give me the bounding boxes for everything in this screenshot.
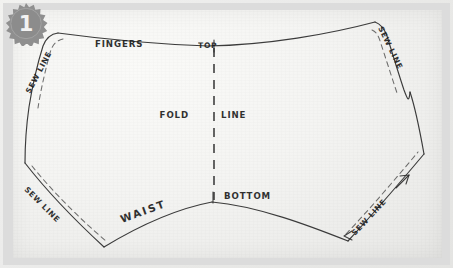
label-sew-line-bottom-right: SEW LINE bbox=[350, 197, 388, 237]
badge-starburst-icon: 1 bbox=[4, 2, 48, 46]
outline-bottom-right-edge bbox=[212, 202, 348, 241]
label-sew-line-top-right: SEW LINE bbox=[376, 25, 404, 71]
label-fold-line-left: FOLD bbox=[160, 110, 189, 120]
label-fingers: FINGERS bbox=[95, 39, 143, 49]
label-fold-line-right: LINE bbox=[221, 110, 246, 120]
label-top: TOP bbox=[198, 41, 217, 50]
outline-right-mid-edge bbox=[410, 92, 424, 154]
outline-left-upper-edge bbox=[25, 33, 58, 163]
label-sew-line-bottom-left: SEW LINE bbox=[23, 185, 62, 224]
step-number-badge: 1 bbox=[4, 2, 48, 46]
pattern-drawing: FINGERS TOP FOLD LINE BOTTOM WAIST SEW L… bbox=[0, 0, 453, 268]
badge-number-text: 1 bbox=[19, 12, 34, 36]
label-sew-line-top-left: SEW LINE bbox=[24, 50, 54, 95]
label-waist: WAIST bbox=[119, 197, 168, 225]
sew-line-bottom-right bbox=[346, 152, 418, 234]
screenshot-root: FINGERS TOP FOLD LINE BOTTOM WAIST SEW L… bbox=[0, 0, 453, 268]
label-bottom: BOTTOM bbox=[224, 191, 271, 201]
